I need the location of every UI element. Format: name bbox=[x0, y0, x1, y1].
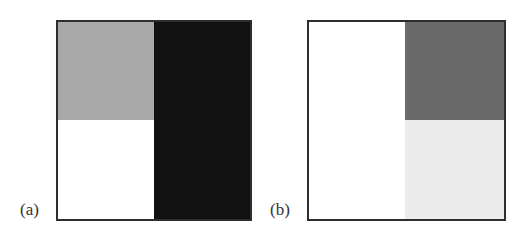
panel-a-label: (a) bbox=[20, 200, 39, 220]
panel-b-bottom-right-lightgray bbox=[405, 120, 504, 219]
panel-b-top-right-darkgray bbox=[405, 22, 504, 120]
panel-b-label: (b) bbox=[270, 200, 290, 220]
panel-a-right-black bbox=[154, 22, 250, 219]
panel-a-bottom-left-white bbox=[58, 120, 154, 219]
panel-b-left-white bbox=[309, 22, 405, 219]
panel-b bbox=[307, 20, 506, 221]
panel-a bbox=[56, 20, 252, 221]
panel-a-top-left-gray bbox=[58, 22, 154, 120]
